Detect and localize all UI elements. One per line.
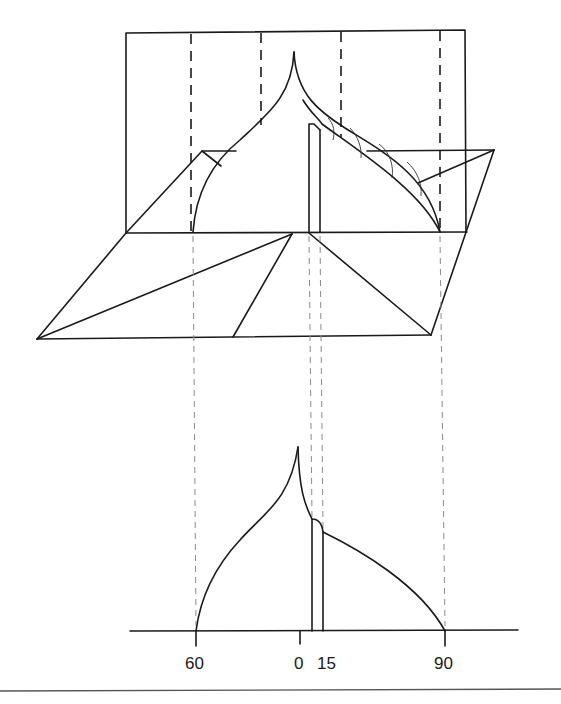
frame-dashed-guides bbox=[191, 31, 440, 232]
axis-label-0: 0 bbox=[294, 654, 303, 673]
axis-labels: 60 0 15 90 bbox=[185, 654, 453, 673]
dome-perspective bbox=[193, 52, 440, 232]
flat-profile bbox=[196, 447, 445, 631]
vertical-frame bbox=[126, 30, 466, 233]
page-rule bbox=[0, 689, 561, 691]
axis-label-60: 60 bbox=[185, 654, 204, 673]
axis-label-15: 15 bbox=[317, 654, 336, 673]
ground-plane bbox=[37, 150, 494, 339]
projection-lines bbox=[193, 236, 445, 626]
axis-label-90: 90 bbox=[434, 654, 453, 673]
projection-diagram: 60 0 15 90 bbox=[0, 0, 561, 704]
profile-axis bbox=[130, 630, 518, 646]
